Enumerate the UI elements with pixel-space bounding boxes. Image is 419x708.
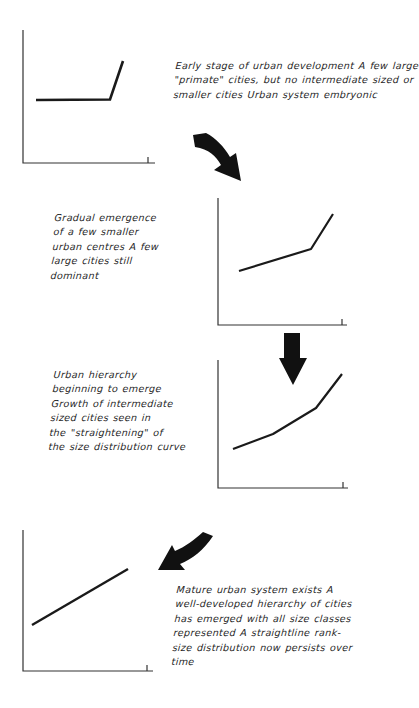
stage-2-curve [239,214,333,271]
stage-1-curve [36,61,123,100]
caption-line: well-developed hierarchy of cities [175,597,356,611]
caption-line: dominant [50,269,157,283]
caption-line: size distribution now persists over [172,641,353,655]
stage-2-axes [218,198,347,325]
caption-line: Early stage of urban development A few l… [175,59,419,73]
stage-4-chart [23,530,153,671]
caption-line: Mature urban system exists A [176,583,357,597]
stage-1-axes [23,30,155,163]
caption-line: has emerged with all size classes [174,612,355,626]
caption-line: Urban hierarchy [53,368,192,382]
stage-2-caption: Gradual emergence of a few smaller urban… [50,211,161,283]
stage-4-axes [23,530,153,671]
stage-3-curve [233,374,342,449]
caption-line: "primate" cities, but no intermediate si… [174,73,418,87]
caption-line: represented A straightline rank- [173,626,354,640]
caption-line: sized cities seen in [50,411,189,425]
caption-line: smaller cities Urban system embryonic [173,88,417,102]
stage-4-curve [32,569,128,625]
caption-line: large cities still [51,254,158,268]
stage-2-chart [218,198,347,325]
stage-3-chart [218,360,348,488]
caption-line: beginning to emerge [52,382,191,396]
caption-line: the "straightening" of [49,426,188,440]
stage-1-chart [23,30,155,163]
curved-arrow-down-left-icon [158,532,213,570]
arrow-down-icon [279,333,307,385]
curved-arrow-down-right-icon [193,133,241,181]
caption-line: Growth of intermediate [51,397,190,411]
caption-line: the size distribution curve [48,440,187,454]
caption-line: of a few smaller [53,225,160,239]
stage-3-axes [218,360,348,488]
caption-line: urban centres A few [52,240,159,254]
caption-line: Gradual emergence [54,211,161,225]
caption-line: time [171,655,352,669]
stage-4-caption: Mature urban system exists A well-develo… [171,583,357,669]
stage-1-caption: Early stage of urban development A few l… [173,59,419,102]
stage-3-caption: Urban hierarchy beginning to emerge Grow… [48,368,192,454]
